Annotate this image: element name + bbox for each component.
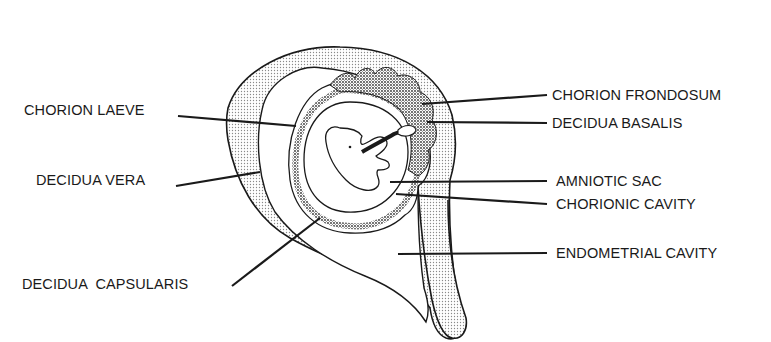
leader-amniotic-sac <box>390 181 547 182</box>
label-decidua-vera: DECIDUA VERA <box>36 173 145 188</box>
label-decidua-capsularis: DECIDUA CAPSULARIS <box>22 277 188 292</box>
label-amniotic-sac: AMNIOTIC SAC <box>556 174 662 189</box>
label-endometrial-cavity: ENDOMETRIAL CAVITY <box>556 246 717 261</box>
label-chorion-frondosum: CHORION FRONDOSUM <box>552 88 721 103</box>
diagram-canvas: CHORION LAEVE DECIDUA VERA DECIDUA CAPSU… <box>0 0 771 342</box>
label-chorion-laeve: CHORION LAEVE <box>24 103 145 118</box>
leader-endometrial-cavity <box>398 253 547 254</box>
label-decidua-basalis: DECIDUA BASALIS <box>552 116 682 131</box>
leader-decidua-basalis <box>427 122 547 123</box>
label-chorionic-cavity: CHORIONIC CAVITY <box>556 197 696 212</box>
